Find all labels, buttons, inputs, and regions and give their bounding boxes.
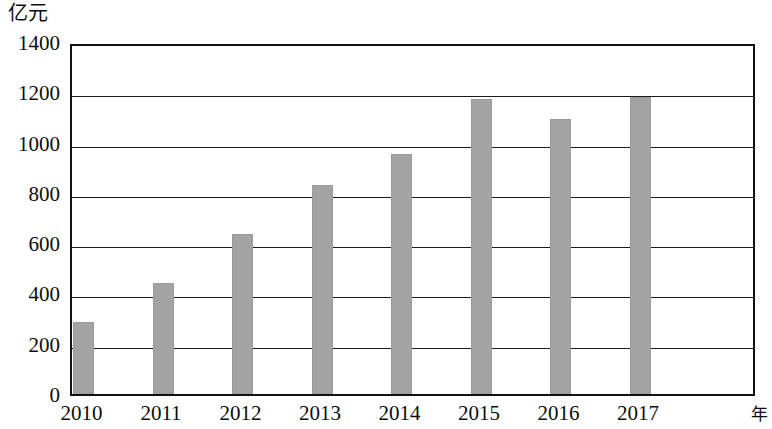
gridline bbox=[72, 197, 753, 198]
bar bbox=[630, 97, 651, 394]
plot-area bbox=[70, 44, 755, 396]
bar bbox=[550, 119, 571, 394]
x-axis-tick-label: 2015 bbox=[449, 401, 509, 425]
gridline bbox=[72, 147, 753, 148]
bar bbox=[471, 99, 492, 394]
y-axis-tick-label: 1000 bbox=[18, 134, 60, 155]
gridline bbox=[72, 247, 753, 248]
gridline bbox=[72, 96, 753, 97]
x-axis-tick-label: 2017 bbox=[608, 401, 668, 425]
bar-chart: 亿元 0200400600800100012001400 年 201020112… bbox=[0, 0, 772, 429]
y-axis-tick-label: 1400 bbox=[18, 33, 60, 54]
bar bbox=[312, 185, 333, 394]
bar bbox=[391, 154, 412, 394]
x-axis-tick-labels: 年 20102011201220132014201520162017 bbox=[0, 401, 772, 429]
bar bbox=[232, 234, 253, 394]
x-axis-tick-label: 2013 bbox=[290, 401, 350, 425]
x-axis-tick-label: 2014 bbox=[370, 401, 430, 425]
x-axis-tick-label: 2016 bbox=[529, 401, 589, 425]
gridline bbox=[72, 297, 753, 298]
bar bbox=[73, 322, 94, 394]
x-axis-unit-label: 年 bbox=[751, 402, 768, 426]
y-axis-tick-label: 400 bbox=[29, 284, 61, 305]
gridline bbox=[72, 348, 753, 349]
y-axis-tick-label: 600 bbox=[29, 234, 61, 255]
x-axis-tick-label: 2010 bbox=[52, 401, 112, 425]
bar bbox=[153, 283, 174, 394]
y-axis-tick-labels: 0200400600800100012001400 bbox=[0, 0, 64, 429]
y-axis-tick-label: 1200 bbox=[18, 83, 60, 104]
y-axis-tick-label: 800 bbox=[29, 184, 61, 205]
y-axis-tick-label: 200 bbox=[29, 335, 61, 356]
x-axis-tick-label: 2011 bbox=[131, 401, 191, 425]
x-axis-tick-label: 2012 bbox=[211, 401, 271, 425]
